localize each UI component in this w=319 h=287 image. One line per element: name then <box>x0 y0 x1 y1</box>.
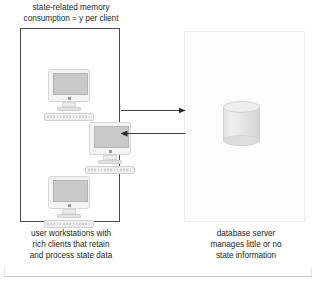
diagram-canvas: state-related memory consumption = y per… <box>0 0 319 287</box>
left-caption: user workstations with rich clients that… <box>8 228 134 262</box>
bottom-rule <box>4 268 312 277</box>
right-caption: database server manages little or no sta… <box>178 228 314 262</box>
